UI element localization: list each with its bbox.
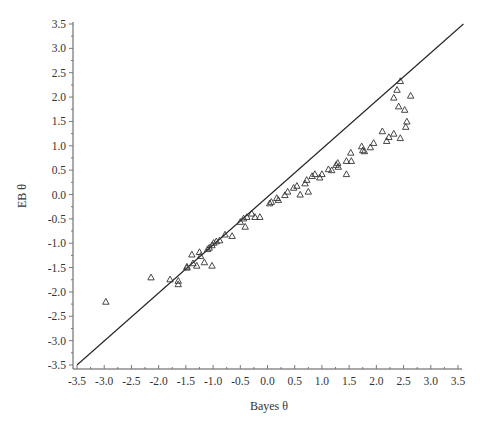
- x-tick-label: -0.5: [231, 375, 249, 387]
- triangle-marker-icon: [370, 140, 376, 146]
- triangle-marker-icon: [284, 188, 290, 194]
- x-tick-label: 3.5: [451, 375, 466, 387]
- y-tick-label: -3.5: [48, 359, 66, 371]
- triangle-marker-icon: [394, 87, 400, 93]
- x-tick-label: 0.0: [260, 375, 275, 387]
- triangle-marker-icon: [302, 180, 308, 186]
- triangle-marker-icon: [397, 135, 403, 141]
- y-tick-label: 3.5: [52, 18, 67, 30]
- x-tick-label: -2.5: [122, 375, 140, 387]
- x-tick-label: 1.0: [315, 375, 330, 387]
- triangle-marker-icon: [303, 177, 309, 183]
- x-axis-ticks: -3.5-3.0-2.5-2.0-1.5-1.0-0.50.00.51.01.5…: [68, 365, 466, 387]
- y-tick-label: -2.0: [48, 286, 66, 298]
- x-tick-label: 3.0: [424, 375, 439, 387]
- triangle-marker-icon: [305, 188, 311, 194]
- plot-area: [77, 24, 463, 365]
- x-tick-label: 0.5: [288, 375, 303, 387]
- x-tick-label: -3.5: [68, 375, 86, 387]
- triangle-marker-icon: [196, 249, 202, 255]
- y-tick-label: 3.0: [52, 42, 67, 54]
- y-tick-label: 1.5: [52, 115, 67, 127]
- y-tick-label: -0.5: [48, 213, 66, 225]
- triangle-marker-icon: [391, 130, 397, 136]
- triangle-marker-icon: [103, 298, 109, 304]
- triangle-marker-icon: [401, 107, 407, 113]
- triangle-marker-icon: [257, 214, 263, 220]
- x-tick-label: -1.5: [177, 375, 195, 387]
- data-points: [103, 78, 414, 304]
- y-axis-title: EB θ: [15, 184, 29, 208]
- x-tick-label: 2.0: [369, 375, 384, 387]
- x-tick-label: -2.0: [150, 375, 168, 387]
- triangle-marker-icon: [391, 94, 397, 100]
- y-tick-label: 2.5: [52, 67, 67, 79]
- triangle-marker-icon: [395, 103, 401, 109]
- identity-reference-line: [77, 24, 463, 365]
- triangle-marker-icon: [397, 78, 403, 84]
- y-tick-label: 1.0: [52, 140, 67, 152]
- triangle-marker-icon: [229, 233, 235, 239]
- triangle-marker-icon: [148, 274, 154, 280]
- triangle-marker-icon: [404, 118, 410, 124]
- scatter-chart: 3.53.02.52.01.51.00.50.0-0.5-1.0-1.5-2.0…: [0, 0, 485, 427]
- triangle-marker-icon: [275, 197, 281, 203]
- y-axis: 3.53.02.52.01.51.00.50.0-0.5-1.0-1.5-2.0…: [48, 18, 73, 371]
- x-tick-label: -1.0: [204, 375, 222, 387]
- triangle-marker-icon: [348, 158, 354, 164]
- triangle-marker-icon: [407, 92, 413, 98]
- triangle-marker-icon: [209, 262, 215, 268]
- x-axis: -3.5-3.0-2.5-2.0-1.5-1.0-0.50.00.51.01.5…: [68, 365, 466, 387]
- y-tick-label: 2.0: [52, 91, 67, 103]
- x-tick-label: 2.5: [396, 375, 411, 387]
- y-tick-label: -1.0: [48, 237, 66, 249]
- triangle-marker-icon: [290, 184, 296, 190]
- y-axis-ticks: 3.53.02.52.01.51.00.50.0-0.5-1.0-1.5-2.0…: [48, 18, 73, 371]
- y-tick-label: 0.5: [52, 164, 67, 176]
- triangle-marker-icon: [297, 191, 303, 197]
- triangle-marker-icon: [379, 128, 385, 134]
- x-tick-label: -3.0: [95, 375, 113, 387]
- x-tick-label: 1.5: [342, 375, 357, 387]
- triangle-marker-icon: [167, 276, 173, 282]
- triangle-marker-icon: [189, 251, 195, 257]
- triangle-marker-icon: [201, 259, 207, 265]
- triangle-marker-icon: [348, 149, 354, 155]
- x-axis-title: Bayes θ: [250, 399, 288, 413]
- y-tick-label: -1.5: [48, 262, 66, 274]
- triangle-marker-icon: [403, 124, 409, 130]
- y-tick-label: 0.0: [52, 189, 67, 201]
- triangle-marker-icon: [343, 171, 349, 177]
- y-tick-label: -3.0: [48, 335, 66, 347]
- y-tick-label: -2.5: [48, 310, 66, 322]
